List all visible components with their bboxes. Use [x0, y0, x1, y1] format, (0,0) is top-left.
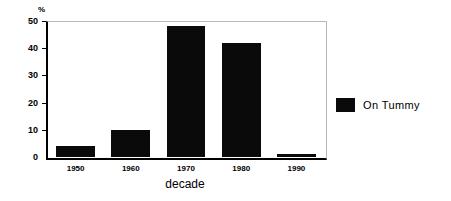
- y-axis-tick-label: 0: [16, 153, 38, 162]
- x-axis-title: decade: [46, 177, 324, 191]
- y-axis-tick-label: 20: [16, 99, 38, 108]
- chart-legend: On Tummy: [336, 98, 420, 112]
- x-axis-tick-label: 1990: [266, 164, 326, 173]
- x-axis-tick-label: 1960: [101, 164, 161, 173]
- y-axis-unit-label: %: [38, 5, 45, 15]
- bar: [56, 146, 95, 157]
- bar: [222, 43, 261, 157]
- y-axis-tick-label: 30: [16, 71, 38, 80]
- y-axis-tick-label: 40: [16, 44, 38, 53]
- x-axis-tick-label: 1950: [46, 164, 106, 173]
- y-axis-tick-label: 50: [16, 17, 38, 26]
- bar: [277, 154, 316, 157]
- legend-swatch-on-tummy: [336, 98, 355, 112]
- x-axis-tick-label: 1970: [156, 164, 216, 173]
- bar: [111, 130, 150, 157]
- y-axis-tick-label: 10: [16, 126, 38, 135]
- x-axis-tick-label: 1980: [211, 164, 271, 173]
- bar-series-on-tummy: [48, 21, 324, 157]
- bar-chart-figure: % 01020304050 19501960197019801990 decad…: [0, 0, 451, 201]
- legend-label-on-tummy: On Tummy: [363, 99, 420, 111]
- bar: [167, 26, 206, 157]
